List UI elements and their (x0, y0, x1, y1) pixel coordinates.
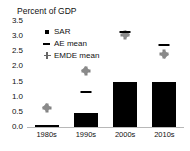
legend-item-ae-mean: AE mean (43, 38, 99, 49)
chart-title: Percent of GDP (17, 7, 77, 16)
square-marker-icon (43, 27, 52, 36)
y-axis-tick-label: 0.5 (12, 108, 23, 116)
bar-1990s (74, 113, 98, 127)
x-axis-tick-label: 1990s (76, 131, 96, 139)
legend-label-ae-mean: AE mean (54, 39, 87, 48)
bar-2000s (113, 82, 137, 127)
y-axis-tick-label: 2.5 (12, 47, 23, 55)
ae-mean-marker-2010s (159, 44, 170, 46)
x-axis-tick-label: 1980s (36, 131, 56, 139)
chart-legend: SAR AE mean EMDE mean (43, 26, 99, 62)
ae-mean-marker-2000s (120, 31, 131, 33)
bar-1980s (35, 125, 59, 127)
emde-mean-marker-1990s (81, 66, 90, 75)
y-axis-tick-label: 0.0 (12, 123, 23, 131)
y-axis-tick-label: 2.0 (12, 62, 23, 70)
emde-mean-marker-2010s (160, 50, 169, 59)
y-axis-tick-label: 1.5 (12, 78, 23, 86)
emde-mean-marker-1980s (42, 103, 51, 112)
x-axis-tick-label: 2000s (115, 131, 135, 139)
chart-container: Percent of GDP 0.00.51.01.52.02.53.03.5 … (0, 0, 190, 151)
bar-2010s (152, 82, 176, 127)
dash-marker-icon (43, 39, 52, 48)
ae-mean-marker-1990s (80, 91, 91, 93)
legend-label-emde-mean: EMDE mean (54, 51, 99, 60)
legend-label-sar: SAR (54, 27, 70, 36)
plus-marker-icon (43, 51, 52, 60)
y-axis-tick-label: 3.0 (12, 32, 23, 40)
x-axis-tick-label: 2010s (154, 131, 174, 139)
y-axis-tick-label: 1.0 (12, 93, 23, 101)
x-axis-line (27, 127, 184, 128)
legend-item-sar: SAR (43, 26, 99, 37)
legend-item-emde-mean: EMDE mean (43, 50, 99, 61)
y-axis-tick-label: 3.5 (12, 17, 23, 25)
